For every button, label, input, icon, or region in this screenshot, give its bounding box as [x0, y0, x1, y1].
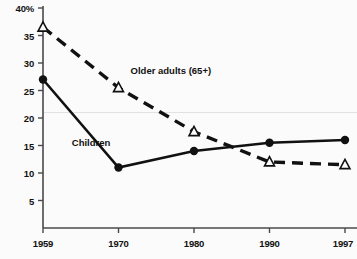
y-axis-tick-label: 30: [0, 58, 34, 69]
y-axis-tick-label: 25: [0, 85, 34, 96]
line-chart: 40%3530252015105 19591970198019901997 Ol…: [0, 0, 357, 259]
y-axis-tick-label: 5: [0, 195, 34, 206]
y-axis-tick-label: 35: [0, 30, 34, 41]
series-label-older-adults: Older adults (65+): [131, 65, 212, 76]
data-point-marker-circle: [265, 139, 273, 147]
series-label-children: Children: [72, 137, 111, 148]
axes: [38, 6, 357, 233]
series-layer: [38, 22, 350, 172]
chart-plot-area: [0, 0, 357, 259]
y-axis-tick-label: 10: [0, 168, 34, 179]
x-axis-tick-label: 1959: [33, 238, 53, 249]
data-point-marker-circle: [341, 136, 349, 144]
y-axis-tick-label: 15: [0, 140, 34, 151]
x-axis-tick-label: 1980: [184, 238, 204, 249]
x-axis-tick-label: 1970: [108, 238, 128, 249]
data-point-marker-triangle: [340, 159, 350, 168]
data-point-marker-circle: [190, 147, 198, 155]
y-axis-tick-label: 40%: [0, 3, 34, 14]
data-point-marker-circle: [39, 75, 47, 83]
data-point-marker-triangle: [38, 22, 48, 31]
x-axis-tick-label: 1997: [333, 238, 353, 249]
y-axis-tick-label: 20: [0, 113, 34, 124]
x-axis-tick-label: 1990: [259, 238, 279, 249]
data-point-marker-circle: [114, 163, 122, 171]
